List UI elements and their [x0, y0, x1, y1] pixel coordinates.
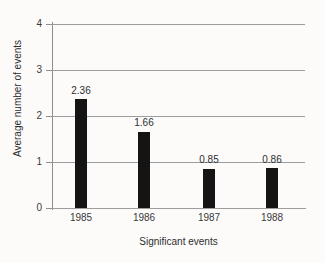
gridline-4	[52, 24, 305, 25]
gridline-2	[52, 116, 305, 117]
y-tick-mark-4	[46, 24, 52, 25]
y-tick-mark-1	[46, 162, 52, 163]
y-tick-label-3: 3	[28, 65, 42, 75]
x-axis-title: Significant events	[52, 236, 305, 247]
y-tick-mark-0	[46, 208, 52, 209]
x-tick-label-1985: 1985	[58, 213, 104, 223]
bar-1987	[203, 169, 215, 208]
x-tick-label-1988: 1988	[249, 213, 295, 223]
bar-1986	[138, 132, 150, 208]
bar-chart-figure: 2.36 1.66 0.85 0.86 4 3 2 1 0 1985 1986 …	[0, 0, 325, 263]
y-axis-title: Average number of events	[12, 19, 23, 179]
y-tick-mark-2	[46, 116, 52, 117]
y-tick-label-0: 0	[28, 203, 42, 213]
x-axis-line	[52, 208, 306, 209]
y-tick-mark-3	[46, 70, 52, 71]
bar-value-1988: 0.86	[252, 155, 292, 165]
bar-value-1987: 0.85	[189, 155, 229, 165]
y-tick-label-4: 4	[28, 19, 42, 29]
plot-area: 2.36 1.66 0.85 0.86	[52, 24, 305, 208]
y-tick-label-2: 2	[28, 111, 42, 121]
x-tick-label-1986: 1986	[121, 213, 167, 223]
bar-1985	[75, 99, 87, 208]
bar-value-1986: 1.66	[124, 118, 164, 128]
bar-1988	[266, 168, 278, 208]
x-tick-label-1987: 1987	[186, 213, 232, 223]
y-tick-label-1: 1	[28, 157, 42, 167]
bar-value-1985: 2.36	[61, 86, 101, 96]
gridline-3	[52, 70, 305, 71]
